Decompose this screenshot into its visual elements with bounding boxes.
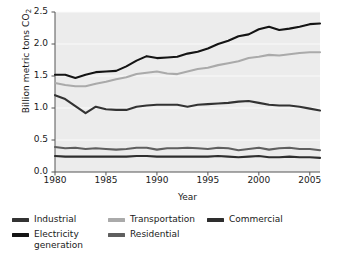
legend-item[interactable]: Transportation: [108, 214, 195, 225]
legend-color-swatch: [108, 233, 125, 237]
legend-color-swatch: [108, 218, 125, 222]
x-axis-tick-label: 1985: [86, 176, 126, 185]
x-axis-tick-label: 1995: [188, 176, 228, 185]
legend-item[interactable]: Industrial: [12, 214, 76, 225]
series-line-commercial: [55, 156, 320, 158]
legend-label: Transportation: [130, 214, 195, 225]
co2-emissions-line-chart: Billion metric tons CO2 0.00.51.01.52.02…: [0, 0, 338, 266]
legend-color-swatch: [12, 218, 29, 222]
x-axis-tick-label: 1990: [137, 176, 177, 185]
legend-color-swatch: [207, 218, 224, 222]
legend-label: Commercial: [229, 214, 283, 225]
legend-label: Residential: [130, 229, 180, 240]
x-axis-tick-label: 1980: [35, 176, 75, 185]
legend-item[interactable]: Commercial: [207, 214, 283, 225]
plot-area: [0, 0, 338, 190]
x-axis-tick-label: 2000: [239, 176, 279, 185]
legend-item[interactable]: Residential: [108, 229, 180, 240]
chart-legend: IndustrialElectricity generationTranspor…: [12, 214, 332, 264]
x-axis-label: Year: [55, 192, 320, 202]
legend-item[interactable]: Electricity generation: [12, 229, 83, 251]
legend-label: Industrial: [34, 214, 76, 225]
x-axis-tick-label: 2005: [290, 176, 330, 185]
legend-label: Electricity generation: [34, 229, 83, 251]
legend-color-swatch: [12, 233, 29, 237]
